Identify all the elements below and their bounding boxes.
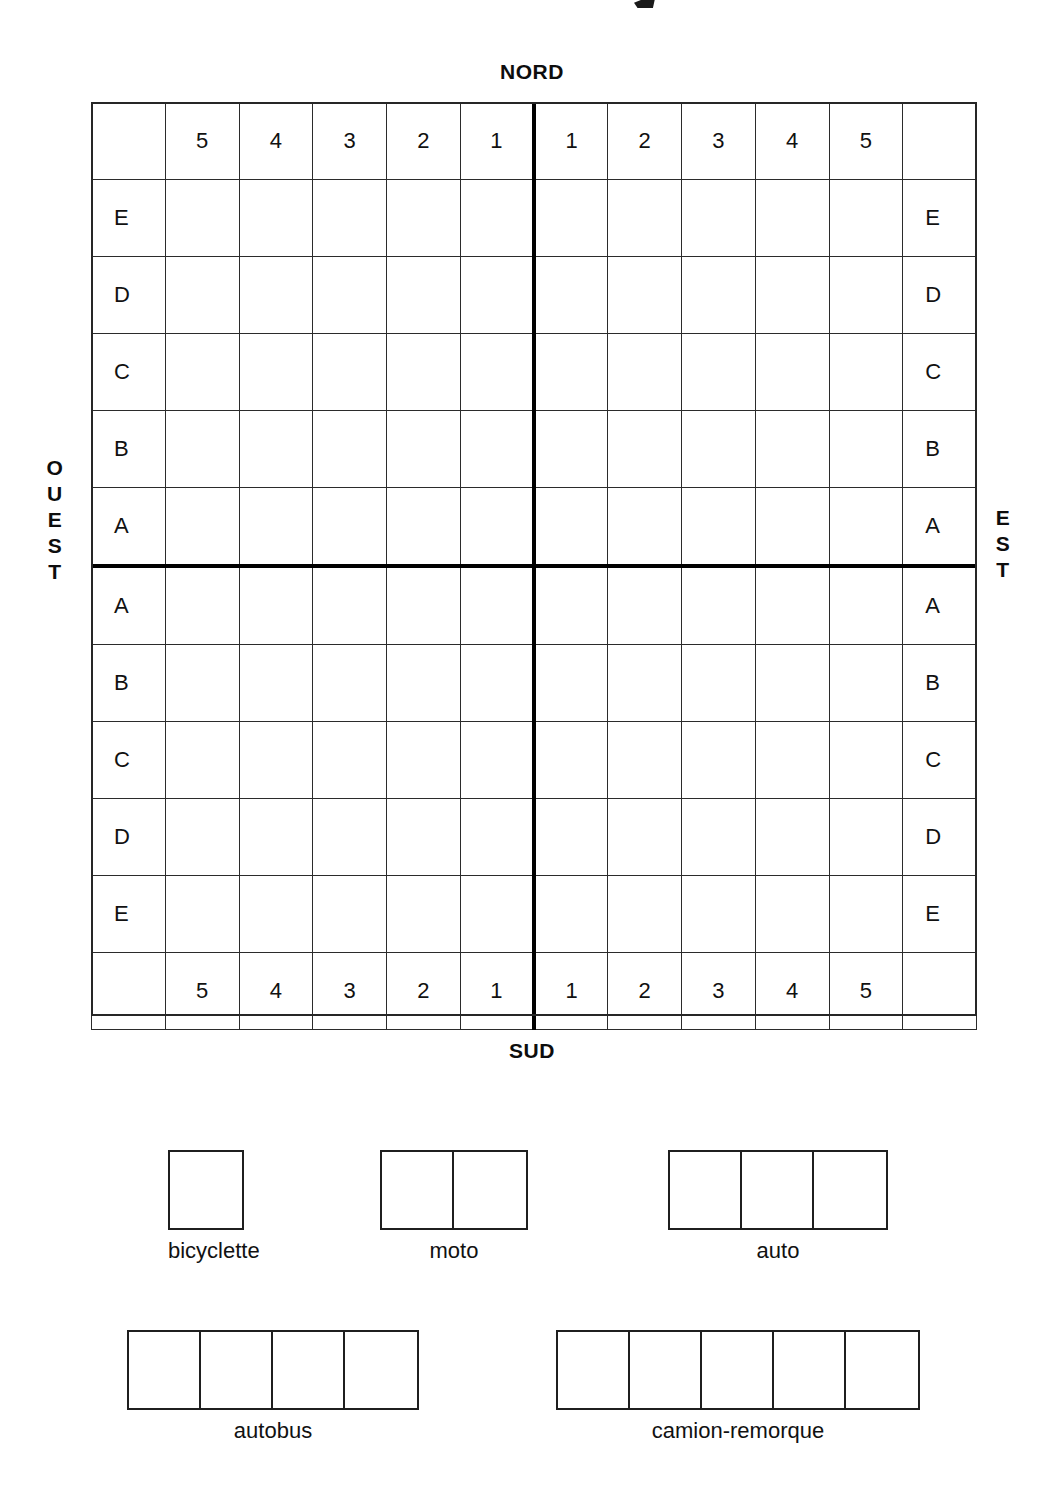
grid-cell-empty[interactable]: [608, 180, 682, 257]
grid-cell-empty[interactable]: [387, 566, 461, 645]
grid-cell-empty[interactable]: [534, 876, 608, 953]
grid-cell-empty[interactable]: [239, 411, 313, 488]
grid-cell-empty[interactable]: [755, 334, 829, 411]
grid-cell-empty[interactable]: [682, 876, 756, 953]
grid-cell-empty[interactable]: [682, 566, 756, 645]
grid-cell-empty[interactable]: [387, 488, 461, 567]
grid-cell-empty[interactable]: [534, 257, 608, 334]
grid-cell-empty[interactable]: [534, 334, 608, 411]
grid-cell-empty[interactable]: [387, 722, 461, 799]
grid-cell-empty[interactable]: [165, 488, 239, 567]
grid-cell-empty[interactable]: [682, 334, 756, 411]
grid-cell-empty[interactable]: [460, 180, 534, 257]
grid-cell-empty[interactable]: [608, 722, 682, 799]
grid-cell-empty[interactable]: [460, 645, 534, 722]
grid-cell-empty[interactable]: [387, 411, 461, 488]
grid-cell-empty[interactable]: [829, 876, 903, 953]
grid-cell-empty[interactable]: [829, 180, 903, 257]
grid-cell-empty[interactable]: [387, 876, 461, 953]
grid-cell-empty[interactable]: [534, 722, 608, 799]
grid-cell-empty[interactable]: [165, 334, 239, 411]
grid-cell-empty[interactable]: [682, 722, 756, 799]
grid-cell-empty[interactable]: [534, 411, 608, 488]
grid-cell-empty[interactable]: [755, 876, 829, 953]
grid-cell-empty[interactable]: [165, 180, 239, 257]
grid-cell-empty[interactable]: [239, 645, 313, 722]
grid-cell-empty[interactable]: [829, 334, 903, 411]
grid-cell-empty[interactable]: [682, 488, 756, 567]
grid-cell-empty[interactable]: [755, 180, 829, 257]
grid-cell-empty[interactable]: [165, 722, 239, 799]
grid-cell-empty[interactable]: [313, 411, 387, 488]
grid-cell-empty[interactable]: [608, 566, 682, 645]
grid-cell-empty[interactable]: [313, 180, 387, 257]
grid-cell-empty[interactable]: [682, 411, 756, 488]
grid-cell-empty[interactable]: [165, 257, 239, 334]
grid-cell-empty[interactable]: [755, 645, 829, 722]
grid-cell-empty[interactable]: [313, 334, 387, 411]
grid-cell-empty[interactable]: [239, 876, 313, 953]
grid-cell-empty[interactable]: [534, 566, 608, 645]
grid-cell-empty[interactable]: [239, 180, 313, 257]
grid-cell-empty[interactable]: [460, 334, 534, 411]
grid-cell-empty[interactable]: [387, 334, 461, 411]
grid-cell-empty[interactable]: [387, 257, 461, 334]
grid-cell-empty[interactable]: [608, 334, 682, 411]
grid-cell-empty[interactable]: [534, 799, 608, 876]
grid-cell-empty[interactable]: [608, 257, 682, 334]
grid-cell-empty[interactable]: [239, 334, 313, 411]
grid-cell-empty[interactable]: [829, 488, 903, 567]
grid-cell-empty[interactable]: [755, 799, 829, 876]
grid-cell-empty[interactable]: [682, 257, 756, 334]
grid-cell-empty[interactable]: [165, 566, 239, 645]
grid-cell-empty[interactable]: [829, 799, 903, 876]
grid-cell-empty[interactable]: [239, 488, 313, 567]
grid-cell-empty[interactable]: [313, 257, 387, 334]
grid-cell-empty[interactable]: [534, 180, 608, 257]
grid-cell-empty[interactable]: [682, 180, 756, 257]
grid-cell-empty[interactable]: [460, 799, 534, 876]
grid-cell-empty[interactable]: [755, 257, 829, 334]
grid-cell-empty[interactable]: [313, 876, 387, 953]
grid-cell-empty[interactable]: [608, 488, 682, 567]
grid-cell-empty[interactable]: [460, 488, 534, 567]
grid-cell-empty[interactable]: [755, 566, 829, 645]
grid-cell-empty[interactable]: [387, 799, 461, 876]
grid-cell-empty[interactable]: [313, 799, 387, 876]
grid-cell-empty[interactable]: [313, 722, 387, 799]
grid-cell-empty[interactable]: [534, 645, 608, 722]
grid-cell-empty[interactable]: [165, 411, 239, 488]
grid-cell-empty[interactable]: [313, 566, 387, 645]
grid-cell-empty[interactable]: [829, 411, 903, 488]
grid-cell-empty[interactable]: [608, 876, 682, 953]
grid-cell-empty[interactable]: [460, 722, 534, 799]
grid-cell-empty[interactable]: [829, 257, 903, 334]
grid-cell-empty[interactable]: [165, 645, 239, 722]
grid-cell-empty[interactable]: [755, 411, 829, 488]
grid-cell-empty[interactable]: [829, 645, 903, 722]
grid-cell-empty[interactable]: [239, 257, 313, 334]
grid-cell-empty[interactable]: [534, 488, 608, 567]
grid-cell-empty[interactable]: [755, 488, 829, 567]
grid-cell-empty[interactable]: [608, 799, 682, 876]
grid-cell-empty[interactable]: [829, 722, 903, 799]
grid-cell-empty[interactable]: [165, 876, 239, 953]
grid-cell-empty[interactable]: [239, 722, 313, 799]
grid-cell-empty[interactable]: [460, 876, 534, 953]
grid-cell-empty[interactable]: [755, 722, 829, 799]
grid-cell-empty[interactable]: [682, 645, 756, 722]
grid-cell-empty[interactable]: [387, 180, 461, 257]
grid-cell-empty[interactable]: [460, 566, 534, 645]
grid-cell-empty[interactable]: [313, 488, 387, 567]
grid-cell-empty[interactable]: [460, 257, 534, 334]
grid-cell-empty[interactable]: [165, 799, 239, 876]
grid-cell-empty[interactable]: [608, 645, 682, 722]
grid-cell-empty[interactable]: [313, 645, 387, 722]
grid-cell-empty[interactable]: [608, 411, 682, 488]
grid-cell-empty[interactable]: [239, 799, 313, 876]
grid-cell-empty[interactable]: [682, 799, 756, 876]
grid-cell-empty[interactable]: [387, 645, 461, 722]
grid-cell-empty[interactable]: [829, 566, 903, 645]
grid-cell-empty[interactable]: [239, 566, 313, 645]
grid-cell-empty[interactable]: [460, 411, 534, 488]
